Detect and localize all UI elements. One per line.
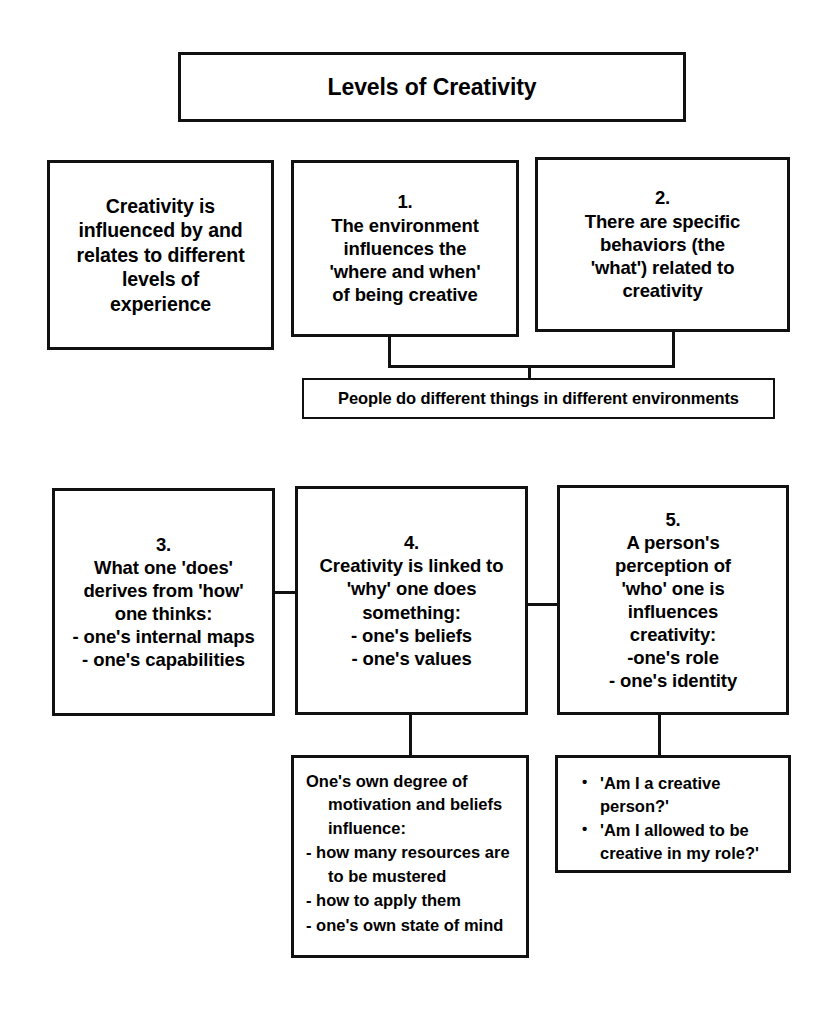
- people-statement-box: People do different things in different …: [302, 378, 775, 419]
- level-2-line-3: 'what') related to: [591, 256, 735, 279]
- intro-box: Creativity is influenced by and relates …: [47, 160, 274, 350]
- intro-line-2: influenced by and: [78, 218, 242, 243]
- influence-paragraph-2: - how many resources are to be mustered: [306, 841, 516, 888]
- level-1-line-2: influences the: [344, 237, 467, 260]
- level-5-line-1: A person's: [626, 531, 719, 554]
- level-2-line-1: There are specific: [585, 210, 741, 233]
- question-text-1: 'Am I a creative person?': [600, 774, 720, 815]
- bullet-icon: •: [582, 771, 587, 792]
- intro-line-3: relates to different: [76, 243, 244, 268]
- level-2-line-2: behaviors (the: [600, 233, 725, 256]
- connector-level1-down: [388, 337, 391, 368]
- level-2-number: 2.: [655, 186, 670, 209]
- connector-level4-level5: [525, 603, 560, 606]
- influence-detail-box: One's own degree of motivation and belie…: [291, 755, 529, 958]
- connector-level5-down: [658, 713, 661, 758]
- influence-paragraph-3: - how to apply them: [306, 889, 516, 912]
- level-2-line-4: creativity: [622, 279, 702, 302]
- level-5-line-5: creativity:: [630, 623, 716, 646]
- level-2-box: 2. There are specific behaviors (the 'wh…: [535, 157, 790, 332]
- level-5-line-4: influences: [628, 600, 719, 623]
- intro-line-4: levels of: [122, 267, 199, 292]
- list-item: • 'Am I allowed to be creative in my rol…: [600, 819, 782, 865]
- identity-questions-box: • 'Am I a creative person?' • 'Am I allo…: [555, 755, 791, 873]
- level-1-box: 1. The environment influences the 'where…: [291, 160, 519, 337]
- diagram-title-box: Levels of Creativity: [178, 52, 686, 122]
- connector-level1-level2-join: [388, 365, 675, 368]
- list-item: • 'Am I a creative person?': [600, 772, 782, 818]
- level-5-line-3: 'who' one is: [621, 577, 724, 600]
- intro-line-1: Creativity is: [106, 194, 215, 219]
- influence-paragraph-1: One's own degree of motivation and belie…: [306, 770, 516, 840]
- level-3-line-3: one thinks:: [115, 602, 213, 625]
- level-4-line-1: Creativity is linked to: [320, 554, 504, 577]
- level-3-line-2: derives from 'how': [83, 579, 243, 602]
- level-1-line-3: 'where and when': [329, 260, 480, 283]
- level-4-number: 4.: [404, 531, 419, 554]
- people-statement-text: People do different things in different …: [338, 389, 739, 408]
- connector-level2-down: [672, 332, 675, 368]
- level-3-line-4: - one's internal maps: [72, 625, 254, 648]
- level-3-box: 3. What one 'does' derives from 'how' on…: [52, 488, 275, 716]
- diagram-canvas: Levels of Creativity Creativity is influ…: [0, 0, 829, 1009]
- diagram-title-text: Levels of Creativity: [328, 74, 537, 101]
- level-5-number: 5.: [665, 508, 680, 531]
- level-3-number: 3.: [156, 533, 171, 556]
- identity-questions-list: • 'Am I a creative person?' • 'Am I allo…: [566, 772, 782, 866]
- question-text-2: 'Am I allowed to be creative in my role?…: [600, 821, 759, 862]
- level-3-line-5: - one's capabilities: [82, 648, 245, 671]
- connector-level4-down: [409, 713, 412, 758]
- level-4-line-4: - one's beliefs: [351, 624, 472, 647]
- level-1-number: 1.: [397, 190, 412, 213]
- level-5-line-2: perception of: [615, 554, 731, 577]
- influence-paragraph-4: - one's own state of mind: [306, 914, 516, 937]
- level-5-line-7: - one's identity: [609, 669, 737, 692]
- level-3-line-1: What one 'does': [94, 556, 233, 579]
- level-5-box: 5. A person's perception of 'who' one is…: [557, 485, 789, 715]
- level-1-line-1: The environment: [331, 214, 479, 237]
- level-4-line-2: 'why' one does: [347, 577, 477, 600]
- bullet-icon: •: [582, 818, 587, 839]
- level-4-box: 4. Creativity is linked to 'why' one doe…: [295, 486, 528, 715]
- intro-line-5: experience: [110, 292, 211, 317]
- level-1-line-4: of being creative: [332, 283, 477, 306]
- level-5-line-6: -one's role: [627, 646, 719, 669]
- level-4-line-3: something:: [362, 601, 461, 624]
- level-4-line-5: - one's values: [351, 647, 471, 670]
